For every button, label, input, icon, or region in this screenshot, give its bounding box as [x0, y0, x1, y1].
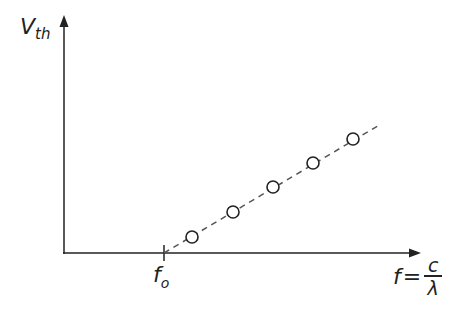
y-axis-label-main: V [20, 14, 35, 39]
data-point-2 [227, 206, 239, 218]
data-point-3 [267, 181, 279, 193]
x-axis-label-eq: = [403, 264, 421, 289]
x-axis-label: f = c λ [393, 255, 442, 299]
data-point-4 [307, 157, 319, 169]
x-axis-label-fraction: c λ [424, 255, 442, 299]
data-point-5 [347, 133, 359, 145]
fraction-denominator: λ [428, 277, 439, 299]
data-markers [186, 133, 359, 243]
y-axis-label-sub: th [35, 25, 50, 43]
y-axis-label: Vth [20, 14, 50, 43]
x-axis-label-lhs: f [393, 264, 401, 289]
x-tick-label-f0: fo [153, 262, 169, 291]
data-point-1 [186, 231, 198, 243]
x-tick-label-sub: o [161, 275, 170, 291]
x-tick-label-main: f [153, 262, 161, 287]
y-axis-arrow-icon [60, 15, 69, 27]
fraction-numerator: c [428, 255, 438, 275]
